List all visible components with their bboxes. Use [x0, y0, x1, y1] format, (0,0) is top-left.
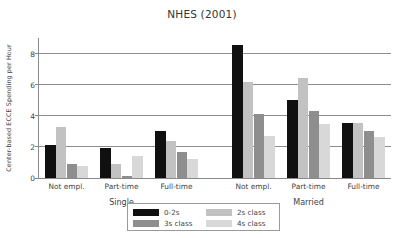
- bar: [287, 100, 298, 178]
- y-tick-label: 4: [17, 112, 35, 121]
- chart-title: NHES (2001): [0, 8, 404, 20]
- bar: [67, 164, 78, 178]
- y-tick-mark: [35, 178, 39, 179]
- y-tick-label: 0: [17, 174, 35, 183]
- bar: [132, 156, 143, 178]
- bar: [187, 159, 198, 178]
- bar: [319, 124, 330, 178]
- bar: [232, 45, 243, 178]
- x-tick-label: Not empl.: [48, 182, 84, 191]
- y-tick-label: 2: [17, 143, 35, 152]
- bar: [122, 176, 133, 178]
- bar: [342, 123, 353, 178]
- y-tick-label: 6: [17, 81, 35, 90]
- legend-item: 0-2s: [133, 208, 179, 217]
- bar: [177, 152, 188, 178]
- bar: [309, 111, 320, 178]
- bar: [264, 136, 275, 178]
- legend-swatch: [206, 220, 232, 227]
- x-tick-label: Full-time: [347, 182, 379, 191]
- x-tick-label: Not empl.: [235, 182, 271, 191]
- legend-swatch: [133, 209, 159, 216]
- y-tick-mark: [35, 84, 39, 85]
- chart-legend: 0-2s2s class3s class4s class: [127, 203, 280, 231]
- y-tick-mark: [35, 146, 39, 147]
- x-tick-label: Full-time: [160, 182, 192, 191]
- legend-label: 2s class: [237, 208, 265, 217]
- gridline: [39, 115, 391, 116]
- legend-swatch: [206, 209, 232, 216]
- bar: [364, 131, 375, 178]
- legend-item: 3s class: [133, 219, 192, 228]
- bar: [111, 164, 122, 178]
- x-tick-label: Part-time: [292, 182, 326, 191]
- gridline: [39, 146, 391, 147]
- bar: [243, 82, 254, 178]
- legend-label: 4s class: [237, 219, 265, 228]
- chart-figure: NHES (2001) Center-based ECCE Spending p…: [0, 0, 404, 238]
- legend-label: 3s class: [164, 219, 192, 228]
- bar: [254, 114, 265, 178]
- legend-item: 4s class: [206, 219, 265, 228]
- bar: [77, 166, 88, 178]
- legend-item: 2s class: [206, 208, 265, 217]
- bar: [45, 145, 56, 178]
- bar: [100, 148, 111, 178]
- bar: [155, 131, 166, 178]
- y-tick-mark: [35, 53, 39, 54]
- bar: [166, 141, 177, 178]
- x-group-label: Married: [293, 198, 323, 207]
- gridline: [39, 53, 391, 54]
- legend-label: 0-2s: [164, 208, 179, 217]
- y-tick-label: 8: [17, 50, 35, 59]
- y-tick-mark: [35, 115, 39, 116]
- bar: [298, 78, 309, 178]
- plot-area: Center-based ECCE Spending per Hour 0246…: [38, 38, 391, 179]
- gridline: [39, 84, 391, 85]
- bar: [353, 123, 364, 178]
- x-tick-label: Part-time: [105, 182, 139, 191]
- legend-swatch: [133, 220, 159, 227]
- bar: [56, 127, 67, 178]
- bar: [374, 137, 385, 178]
- y-axis-title: Center-based ECCE Spending per Hour: [5, 44, 13, 171]
